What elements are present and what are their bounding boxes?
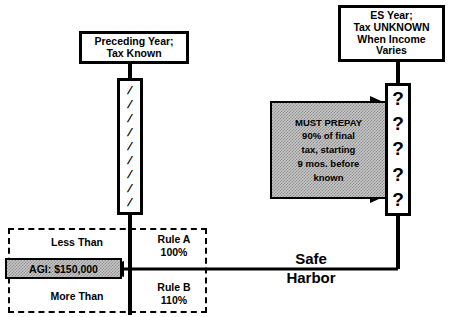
known-tax-slash-icon: / xyxy=(127,99,132,110)
must-prepay-line-1: MUST PREPAY xyxy=(295,116,362,130)
rule-a-name: Rule A xyxy=(143,233,205,246)
es-year-line-1: ES Year; xyxy=(353,10,429,22)
must-prepay-text: MUST PREPAY 90% of final tax, starting 9… xyxy=(295,116,362,185)
known-tax-slash-icon: / xyxy=(127,85,132,96)
es-year-line-2: Tax UNKNOWN xyxy=(353,22,429,34)
safe-harbor-line-1: Safe xyxy=(268,250,354,269)
unknown-tax-question-mark-icon: ? xyxy=(392,141,404,157)
preceding-year-box-text: Preceding Year; Tax Known xyxy=(94,36,173,60)
must-prepay-line-2: 90% of final xyxy=(295,129,362,143)
must-prepay-line-4: 9 mos. before xyxy=(295,157,362,171)
preceding-year-box: Preceding Year; Tax Known xyxy=(79,31,189,64)
known-tax-slash-icon: / xyxy=(127,155,132,166)
known-tax-slash-icon: / xyxy=(127,169,132,180)
unknown-tax-question-mark-icon: ? xyxy=(392,116,404,132)
known-tax-timeline-bar: ///////// xyxy=(117,78,143,215)
safe-harbor-line-2: Harbor xyxy=(268,269,354,288)
rule-a-group: Rule A 100% xyxy=(143,233,205,259)
unknown-tax-question-mark-icon: ? xyxy=(392,91,404,107)
es-year-box-text: ES Year; Tax UNKNOWN When Income Varies xyxy=(353,10,429,57)
preceding-year-line-2: Tax Known xyxy=(94,48,173,60)
diagram-canvas: Preceding Year; Tax Known ES Year; Tax U… xyxy=(0,0,453,317)
known-tax-slash-icon: / xyxy=(127,141,132,152)
rule-b-percent: 110% xyxy=(143,294,205,307)
agi-threshold-chip: AGI: $150,000 xyxy=(5,258,122,279)
safe-harbor-label: Safe Harbor xyxy=(268,250,354,288)
must-prepay-box: MUST PREPAY 90% of final tax, starting 9… xyxy=(270,101,387,199)
known-tax-slash-icon: / xyxy=(127,113,132,124)
unknown-tax-question-mark-icon: ? xyxy=(392,192,404,208)
unknown-tax-question-mark-icon: ? xyxy=(392,167,404,183)
known-tax-slash-icon: / xyxy=(127,197,132,208)
es-year-line-4: Varies xyxy=(353,45,429,57)
more-than-label: More Than xyxy=(16,290,138,302)
known-tax-slash-marks: ///////// xyxy=(120,81,140,212)
rule-a-percent: 100% xyxy=(143,246,205,259)
rule-b-name: Rule B xyxy=(143,281,205,294)
unknown-tax-timeline-bar: ????? xyxy=(385,83,411,216)
es-year-box: ES Year; Tax UNKNOWN When Income Varies xyxy=(338,5,445,62)
rule-b-group: Rule B 110% xyxy=(143,281,205,307)
must-prepay-line-5: known xyxy=(295,171,362,185)
less-than-label: Less Than xyxy=(16,236,138,248)
known-tax-slash-icon: / xyxy=(127,183,132,194)
must-prepay-line-3: tax, starting xyxy=(295,143,362,157)
agi-threshold-label: AGI: $150,000 xyxy=(29,263,98,275)
known-tax-slash-icon: / xyxy=(127,127,132,138)
preceding-year-line-1: Preceding Year; xyxy=(94,36,173,48)
